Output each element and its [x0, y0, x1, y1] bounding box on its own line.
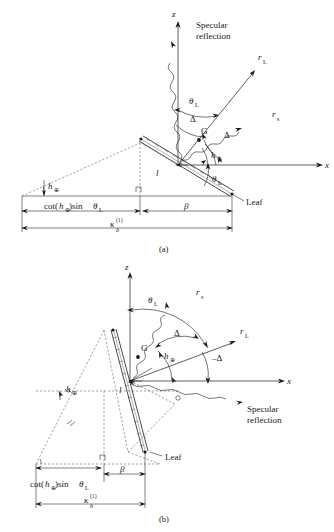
h-sun-label-origin-b: h [164, 351, 169, 361]
specular-label-line1-b: Specular [247, 404, 279, 414]
leaf-bottom-diagonal-b [128, 404, 175, 452]
theta-L-label-b: θ [148, 295, 153, 305]
theta-L-label-bottom-a: θ [212, 174, 217, 184]
dim-kappa-sub-a: b [116, 226, 119, 233]
dim-cot-open-a: cot( [44, 201, 58, 211]
dim-kappa-a [21, 215, 233, 232]
sun-elevation-line-b [36, 330, 104, 464]
specular-node-b [176, 396, 180, 400]
dim-cot-theta-sub-a: L [99, 206, 103, 213]
specular-label-line2-b: reflection [247, 415, 282, 425]
G-label-a: G [201, 126, 208, 136]
z-axis-label-a: z [171, 9, 176, 19]
leaf-slab-a [139, 136, 234, 196]
figure-container: z x h ⊕ [0, 0, 334, 532]
caption-a: (a) [159, 244, 169, 254]
dim-cot-close-b: )sin [55, 479, 69, 489]
dim-cot-theta-a: θ [93, 201, 98, 211]
dim-cot-h-a: h [59, 201, 64, 211]
specular-wave-b [131, 384, 243, 405]
theta-L-arc-top-a [178, 110, 216, 117]
r-s-subscript-b: s [201, 293, 204, 300]
r-L-label-a: r [258, 52, 262, 62]
r-L-subscript-b: L [245, 332, 249, 339]
G-point-marker-b [136, 355, 140, 359]
leaf-label-a: Leaf [246, 197, 262, 207]
dim-cot-theta-sub-b: L [85, 484, 89, 491]
theta-L-label-top-a: θ [189, 96, 194, 106]
dim-kappa-label-a: κ [110, 219, 115, 229]
r-s-label-a: r [272, 109, 276, 119]
h-sun-subscript-left-b: ⊕ [72, 389, 77, 396]
dim-kappa-sup-b: (1) [90, 493, 97, 500]
h-sun-label-left-a: h [48, 181, 53, 191]
r-s-label-b: r [196, 287, 200, 297]
dim-kappa-sub-b: b [90, 502, 93, 509]
h-sun-label-left-b: h [66, 384, 71, 394]
h-sun-subscript-origin-b: ⊕ [170, 356, 175, 363]
x-axis-a [178, 162, 323, 167]
theta-L-subscript-b: L [154, 300, 158, 307]
delta-arc-lower-b [202, 352, 208, 380]
specular-label-line2-a: reflection [196, 31, 231, 41]
figure-svg: z x h ⊕ [0, 0, 334, 532]
dim-cot-theta-b: θ [79, 479, 84, 489]
z-axis-a [175, 21, 180, 165]
delta-label-upper-a: Δ [190, 114, 196, 124]
delta-label-lower-b: –Δ [211, 353, 223, 363]
h-sun-label-origin-a: h [211, 150, 216, 160]
specular-label-line1-a: Specular [196, 20, 228, 30]
dim-kappa-sup-a: (1) [116, 217, 123, 224]
specular-wave-a [168, 41, 182, 162]
r-s-ray-b [133, 302, 169, 378]
length-l-label-a: l [156, 168, 159, 178]
dim-beta-label-b: β [119, 464, 125, 474]
theta-L-subscript-bottom-a: L [218, 179, 222, 186]
sun-elevation-line-a [22, 143, 140, 196]
dim-cot-open-b: cot( [30, 479, 44, 489]
h-sun-subscript-left-a: ⊕ [54, 186, 59, 193]
dim-cot-close-a: )sin [69, 201, 83, 211]
origin-diagonal-b [130, 381, 175, 404]
dim-beta-label-a: β [183, 201, 189, 211]
panel-b: z x h ⊕ [30, 262, 291, 524]
x-axis-label-b: x [286, 376, 291, 386]
leaf-callout-b [150, 452, 162, 456]
G-label-b: G [141, 343, 148, 353]
x-axis-label-a: x [324, 160, 329, 170]
corner-arc-b [40, 459, 41, 464]
dim-cot-h-b: h [45, 479, 50, 489]
z-axis-label-b: z [124, 262, 129, 272]
G-point-marker-a [197, 138, 201, 142]
r-L-label-b: r [240, 326, 244, 336]
r-s-subscript-a: s [277, 115, 280, 122]
dim-kappa-label-b: κ [84, 495, 89, 505]
delta-label-upper-b: Δ [174, 328, 180, 338]
r-L-subscript-a: L [263, 58, 267, 65]
length-l-label-b: l [119, 385, 122, 395]
delta-label-lower-a: Δ [224, 130, 230, 140]
panel-a: z x h ⊕ [21, 9, 329, 254]
caption-b: (b) [159, 514, 169, 524]
theta-L-subscript-top-a: L [195, 101, 199, 108]
z-axis-b [127, 272, 132, 381]
leaf-label-b: Leaf [165, 452, 181, 462]
leaf-callout-a [232, 194, 244, 201]
incoming-arrow-b [128, 368, 152, 385]
